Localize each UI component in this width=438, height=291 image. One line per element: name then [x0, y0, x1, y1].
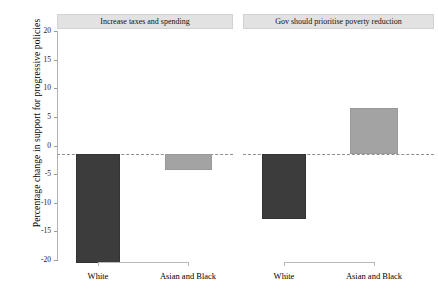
y-tick-label: -5: [11, 169, 51, 178]
y-tick-label: 5: [11, 112, 51, 121]
y-tick-label: 15: [11, 55, 51, 64]
y-tick-label: 10: [11, 83, 51, 92]
bar-white[interactable]: [76, 154, 120, 263]
x-tick-mark: [374, 262, 375, 266]
x-axis: White Asian and Black: [243, 262, 434, 291]
panel-title: Increase taxes and spending: [100, 17, 190, 26]
x-axis-rule: [284, 262, 374, 263]
y-axis: 20 15 10 5 0 -5 -10 -15 -20: [0, 0, 60, 291]
panel-plot-area: [243, 31, 434, 277]
panel-strip-header: Increase taxes and spending: [57, 14, 233, 29]
bar-asian-and-black[interactable]: [165, 154, 212, 170]
y-tick-label: 0: [11, 141, 51, 150]
x-axis-label-asian-and-black: Asian and Black: [346, 271, 402, 281]
y-tick-label: -15: [11, 226, 51, 235]
y-tick-label: -20: [11, 255, 51, 264]
x-axis-label-white: White: [88, 271, 109, 281]
panel-strip-header: Gov should prioritise poverty reduction: [243, 14, 434, 29]
bar-white[interactable]: [262, 154, 306, 219]
x-tick-mark: [98, 262, 99, 266]
chart-figure: Percentage change in support for progres…: [0, 0, 438, 291]
x-axis: White Asian and Black: [57, 262, 233, 291]
y-tick-label: 20: [11, 26, 51, 35]
y-tick-label: -10: [11, 198, 51, 207]
panel-title: Gov should prioritise poverty reduction: [275, 17, 402, 26]
bar-asian-and-black[interactable]: [350, 108, 398, 154]
x-axis-label-white: White: [274, 271, 295, 281]
x-axis-rule: [98, 262, 188, 263]
panel-plot-area: [57, 31, 233, 277]
x-axis-label-asian-and-black: Asian and Black: [160, 271, 216, 281]
x-tick-mark: [188, 262, 189, 266]
x-tick-mark: [284, 262, 285, 266]
